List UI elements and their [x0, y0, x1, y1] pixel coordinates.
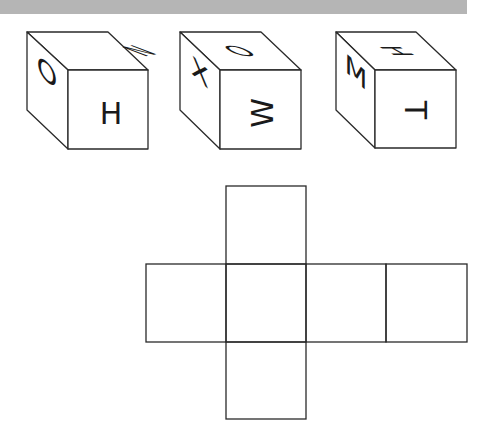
cube-1: N O H — [27, 32, 172, 149]
cube-net — [146, 186, 467, 419]
net-cell-row-3 — [306, 264, 386, 342]
net-cell-row-4 — [386, 264, 467, 342]
net-cell-row-2 — [226, 264, 306, 342]
cube-puzzle-figure: N O H O X W H M T — [0, 0, 482, 432]
cube-1-front-letter: H — [100, 96, 123, 131]
net-cell-bottom — [226, 342, 306, 419]
cube-3-front-letter: T — [398, 100, 433, 120]
net-cell-top — [226, 186, 306, 264]
cube-2: O X W — [180, 32, 301, 149]
cube-3: H M T — [336, 32, 456, 148]
net-cell-row-1 — [146, 264, 226, 342]
cube-2-front-letter: W — [245, 98, 280, 128]
